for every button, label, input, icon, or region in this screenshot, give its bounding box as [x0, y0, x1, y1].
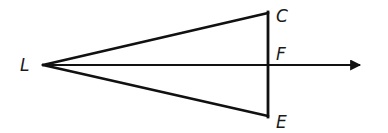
- label-f: F: [276, 44, 286, 64]
- label-l: L: [20, 55, 29, 75]
- segment-le: [43, 65, 268, 116]
- segment-lc: [43, 13, 268, 65]
- label-e: E: [276, 112, 287, 132]
- label-c: C: [276, 6, 288, 26]
- geometry-diagram: L C F E: [0, 0, 388, 133]
